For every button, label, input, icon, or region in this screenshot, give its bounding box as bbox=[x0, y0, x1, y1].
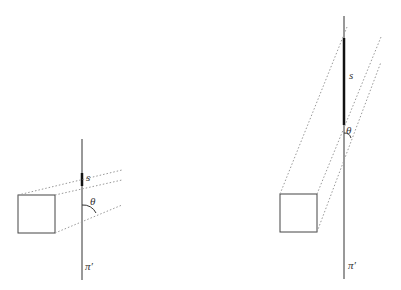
left-label-theta: θ bbox=[90, 195, 96, 207]
right-ray-1 bbox=[280, 27, 347, 194]
left-panel: s θ π′ bbox=[18, 139, 122, 280]
left-label-s: s bbox=[86, 171, 90, 183]
left-square bbox=[18, 195, 55, 233]
right-panel: s θ π′ bbox=[280, 16, 381, 279]
right-square bbox=[280, 194, 317, 232]
right-label-theta: θ bbox=[346, 124, 352, 136]
left-ray-3 bbox=[55, 205, 122, 233]
left-label-plane: π′ bbox=[85, 260, 94, 272]
projection-diagram: s θ π′ s θ π′ bbox=[0, 0, 401, 290]
right-ray-3 bbox=[317, 62, 381, 232]
right-label-s: s bbox=[349, 69, 353, 81]
right-ray-2 bbox=[317, 37, 381, 194]
right-label-plane: π′ bbox=[348, 259, 357, 271]
